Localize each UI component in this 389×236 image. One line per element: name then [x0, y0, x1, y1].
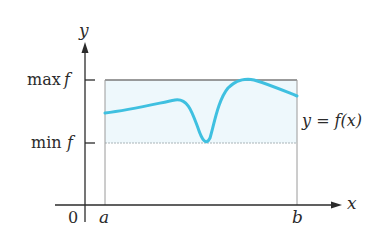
x-axis-label: x — [347, 193, 357, 213]
y-axis-label: y — [78, 20, 89, 40]
b-label: b — [292, 207, 303, 227]
min-f-label-prefix: min — [31, 133, 62, 152]
min-f-label-fn: f — [66, 133, 76, 152]
y-axis-arrow-icon — [82, 42, 89, 53]
x-axis-arrow-icon — [331, 202, 342, 209]
max-f-label-fn: f — [63, 70, 73, 89]
max-f-label-prefix: max — [27, 70, 61, 89]
a-label: a — [99, 207, 109, 227]
figure-canvas: y x max f min f 0 a b y = f(x) — [0, 0, 389, 236]
origin-label: 0 — [68, 208, 78, 227]
curve-label: y = f(x) — [301, 111, 362, 130]
